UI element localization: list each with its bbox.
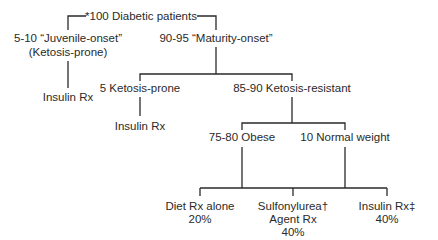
outcome-sulfonylurea-label-2: Agent Rx — [269, 213, 317, 225]
outcome-diet-percent: 20% — [188, 213, 211, 225]
outcome-sulfonylurea-percent: 40% — [281, 226, 304, 238]
outcome-diet-label: Diet Rx alone — [165, 200, 234, 212]
maturity-split — [140, 47, 292, 81]
ketosis-prone-label: 5 Ketosis-prone — [100, 82, 181, 94]
outcome-insulin-percent: 40% — [375, 213, 398, 225]
juvenile-ketosis-prone-label: (Ketosis-prone) — [29, 46, 108, 58]
obese-label: 75-80 Obese — [209, 131, 276, 143]
ketosis-resistant-label: 85-90 Ketosis-resistant — [233, 82, 351, 94]
juvenile-onset-label: 5-10 “Juvenile-onset” — [14, 32, 122, 44]
maturity-onset-label: 90-95 “Maturity-onset” — [159, 32, 272, 44]
outcome-diet: Diet Rx alone 20% — [165, 200, 234, 225]
outcome-sulfonylurea: Sulfonylurea† Agent Rx 40% — [258, 200, 328, 238]
outcome-insulin: Insulin Rx‡ 40% — [359, 200, 416, 225]
outcome-bracket — [200, 147, 387, 196]
juvenile-treatment-label: Insulin Rx — [43, 91, 94, 103]
normal-weight-label: 10 Normal weight — [300, 131, 390, 143]
diabetes-classification-tree: *100 Diabetic patients 5-10 “Juvenile-on… — [0, 0, 438, 240]
ketosis-prone-treatment-label: Insulin Rx — [115, 120, 166, 132]
root-label: *100 Diabetic patients — [85, 10, 197, 22]
outcome-insulin-label: Insulin Rx‡ — [359, 200, 416, 212]
ketosis-resistant-split — [242, 97, 345, 130]
outcome-sulfonylurea-label: Sulfonylurea† — [258, 200, 328, 212]
